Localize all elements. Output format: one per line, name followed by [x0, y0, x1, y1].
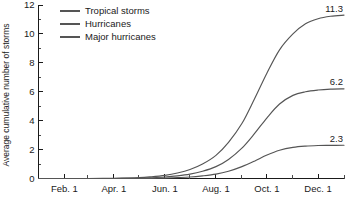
legend-label-0: Tropical storms [85, 5, 150, 16]
series-end-label-0: 11.3 [325, 3, 343, 14]
y-axis-ticks: 024681012 [24, 0, 43, 184]
y-tick-label: 2 [29, 144, 34, 155]
series-end-label-2: 2.3 [330, 133, 343, 144]
x-tick-label: Feb. 1 [51, 183, 78, 194]
x-tick-label: Oct. 1 [254, 183, 279, 194]
chart-canvas: Average cumulative number of storms 0246… [0, 0, 345, 210]
x-tick-label: Aug. 1 [202, 183, 229, 194]
y-tick-label: 12 [24, 0, 35, 10]
series-line-1 [39, 89, 345, 179]
y-tick-label: 0 [29, 173, 34, 184]
y-axis-title-text: Average cumulative number of storms [1, 24, 11, 167]
y-tick-label: 10 [24, 28, 35, 39]
legend-label-2: Major hurricanes [85, 31, 156, 42]
series-end-labels: 11.36.22.3 [325, 3, 343, 144]
y-axis-title: Average cumulative number of storms [1, 24, 11, 167]
y-tick-label: 6 [29, 86, 34, 97]
legend-label-1: Hurricanes [85, 18, 131, 29]
y-tick-label: 4 [29, 115, 34, 126]
series-end-label-1: 6.2 [330, 76, 343, 87]
chart-legend: Tropical stormsHurricanesMajor hurricane… [60, 5, 156, 42]
x-tick-label: Dec. 1 [304, 183, 331, 194]
y-tick-label: 8 [29, 57, 34, 68]
storm-accumulation-chart: Average cumulative number of storms 0246… [0, 0, 345, 210]
x-tick-label: Apr. 1 [101, 183, 126, 194]
x-tick-label: Jun. 1 [152, 183, 178, 194]
